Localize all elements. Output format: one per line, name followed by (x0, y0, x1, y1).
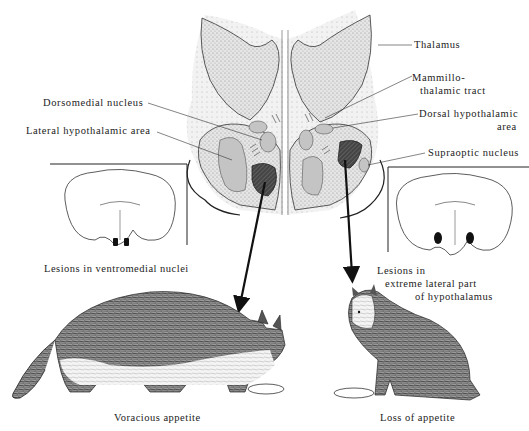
caption-loss-of-appetite: Loss of appetite (380, 411, 455, 424)
food-dish-left (248, 384, 284, 394)
dorsal-hypothalamic-area-nucleus (315, 124, 333, 134)
caption-lateral-lesions-2: extreme lateral part (385, 277, 477, 290)
caption-voracious-appetite: Voracious appetite (114, 411, 201, 424)
label-mammillothalamic-tract-2: thalamic tract (420, 85, 486, 97)
inset-brain-left (50, 164, 187, 246)
hypothalamus-diagram (0, 0, 529, 431)
inset-brain-right (388, 167, 529, 255)
obese-cat-illustration (12, 292, 285, 399)
label-thalamus: Thalamus (414, 39, 460, 51)
label-mammillothalamic-tract-1: Mammillo- (412, 72, 465, 84)
caption-ventromedial-lesions: Lesions in ventromedial nuclei (44, 262, 189, 275)
label-lateral-hypothalamic-area: Lateral hypothalamic area (26, 125, 151, 137)
caption-lateral-lesions-1: Lesions in (377, 264, 425, 277)
food-dish-right (334, 388, 374, 398)
caption-lateral-lesions-3: of hypothalamus (415, 290, 493, 303)
supraoptic-nucleus (359, 158, 369, 172)
dorsomedial-nucleus-left (249, 121, 267, 133)
brain-cross-section (187, 10, 385, 218)
label-dorsomedial-nucleus: Dorsomedial nucleus (43, 97, 143, 109)
label-dorsal-hypothalamic-area-2: area (497, 121, 517, 133)
label-dorsal-hypothalamic-area-1: Dorsal hypothalamic (419, 108, 518, 120)
label-supraoptic-nucleus: Supraoptic nucleus (428, 147, 519, 159)
